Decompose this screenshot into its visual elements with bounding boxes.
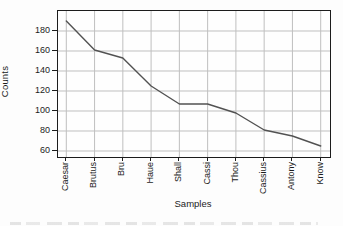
y-tick-label: 80 [20, 125, 50, 136]
x-tick-mark [235, 157, 236, 161]
y-tick-mark [52, 70, 57, 71]
x-tick-mark [65, 157, 66, 161]
x-tick-mark [207, 157, 208, 161]
figure-root: Counts 6080100120140160180 CaesarBrutusB… [0, 0, 343, 226]
x-tick-mark [291, 157, 292, 161]
x-tick-mark [150, 157, 151, 161]
y-tick-label: 180 [20, 25, 50, 36]
y-tick-label: 100 [20, 105, 50, 116]
x-tick-mark [122, 157, 123, 161]
y-tick-label: 120 [20, 85, 50, 96]
y-tick-mark [52, 50, 57, 51]
y-tick-mark [52, 130, 57, 131]
y-tick-label: 140 [20, 65, 50, 76]
y-tick-mark [52, 150, 57, 151]
data-line [66, 21, 320, 146]
chart-svg [58, 11, 330, 157]
x-tick-mark [320, 157, 321, 161]
x-axis-label: Samples [57, 198, 329, 209]
caption-fragment-cropped [10, 222, 318, 225]
plot-area [57, 10, 331, 158]
y-tick-mark [52, 90, 57, 91]
x-tick-mark [178, 157, 179, 161]
x-tick-mark [94, 157, 95, 161]
y-tick-label: 160 [20, 45, 50, 56]
y-tick-label: 60 [20, 145, 50, 156]
y-axis-label: Counts [0, 52, 10, 112]
y-tick-mark [52, 110, 57, 111]
x-tick-mark [263, 157, 264, 161]
y-tick-mark [52, 30, 57, 31]
